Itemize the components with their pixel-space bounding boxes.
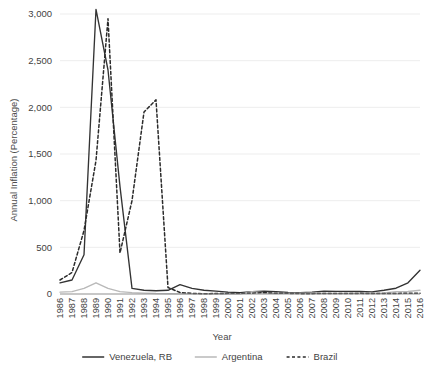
x-axis-tick-labels: 1986198719881989199019911992199319941995… xyxy=(55,298,425,318)
x-tick-label: 1999 xyxy=(211,298,221,318)
x-tick-label: 1986 xyxy=(55,298,65,318)
inflation-line-chart: 05001,0001,5002,0002,5003,000 1986198719… xyxy=(0,0,427,372)
x-tick-label: 1994 xyxy=(151,298,161,318)
x-axis-title: Year xyxy=(212,331,231,342)
x-tick-label: 2002 xyxy=(247,298,257,318)
x-tick-label: 2004 xyxy=(271,298,281,318)
x-tick-label: 1993 xyxy=(139,298,149,318)
legend-label-argentina[interactable]: Argentina xyxy=(222,351,263,362)
x-tick-label: 2009 xyxy=(331,298,341,318)
x-tick-label: 2007 xyxy=(307,298,317,318)
x-tick-label: 1998 xyxy=(199,298,209,318)
x-tick-label: 1992 xyxy=(127,298,137,318)
y-tick-label: 500 xyxy=(36,242,52,253)
chart-canvas: 05001,0001,5002,0002,5003,000 1986198719… xyxy=(0,0,427,372)
x-tick-label: 2014 xyxy=(391,298,401,318)
x-tick-label: 2008 xyxy=(319,298,329,318)
x-tick-label: 1995 xyxy=(163,298,173,318)
x-tick-label: 1996 xyxy=(175,298,185,318)
x-tick-label: 2005 xyxy=(283,298,293,318)
legend-label-brazil[interactable]: Brazil xyxy=(314,351,338,362)
x-tick-label: 1997 xyxy=(187,298,197,318)
x-tick-label: 2000 xyxy=(223,298,233,318)
x-tick-label: 2011 xyxy=(355,298,365,318)
x-tick-label: 2012 xyxy=(367,298,377,318)
x-tick-label: 1990 xyxy=(103,298,113,318)
y-tick-label: 1,000 xyxy=(28,195,52,206)
x-tick-label: 1991 xyxy=(115,298,125,318)
legend-label-venezuela-rb[interactable]: Venezuela, RB xyxy=(109,351,172,362)
x-tick-label: 2003 xyxy=(259,298,269,318)
y-tick-label: 2,000 xyxy=(28,102,52,113)
x-tick-label: 2006 xyxy=(295,298,305,318)
y-axis-title: Annual Inflation (Percentage) xyxy=(8,98,19,221)
x-tick-label: 2015 xyxy=(403,298,413,318)
y-tick-label: 2,500 xyxy=(28,55,52,66)
x-tick-label: 2013 xyxy=(379,298,389,318)
x-tick-label: 1989 xyxy=(91,298,101,318)
x-tick-label: 1988 xyxy=(79,298,89,318)
x-tick-label: 2016 xyxy=(415,298,425,318)
y-tick-label: 1,500 xyxy=(28,148,52,159)
x-tick-label: 2001 xyxy=(235,298,245,318)
y-tick-label: 0 xyxy=(47,288,52,299)
x-tick-label: 2010 xyxy=(343,298,353,318)
y-tick-label: 3,000 xyxy=(28,8,52,19)
x-tick-label: 1987 xyxy=(67,298,77,318)
